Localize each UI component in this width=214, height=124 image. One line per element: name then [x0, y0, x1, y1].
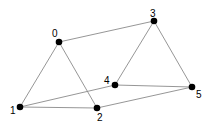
edge-0-3 [59, 21, 154, 42]
edges-group [20, 21, 192, 108]
edge-3-5 [154, 21, 192, 87]
edge-0-2 [59, 42, 97, 108]
edge-1-2 [20, 107, 97, 108]
node-label-0: 0 [52, 28, 58, 39]
node-label-5: 5 [196, 89, 202, 100]
node-1 [17, 104, 24, 111]
node-4 [112, 82, 119, 89]
edge-3-4 [115, 21, 154, 85]
node-5 [189, 84, 196, 91]
node-2 [94, 105, 101, 112]
node-label-2: 2 [97, 112, 103, 123]
node-label-3: 3 [150, 8, 156, 19]
node-0 [56, 39, 63, 46]
edge-4-5 [115, 85, 192, 87]
node-label-1: 1 [10, 105, 16, 116]
edge-1-4 [20, 85, 115, 107]
node-label-4: 4 [104, 75, 110, 86]
graph-diagram: 012345 [0, 0, 214, 124]
edge-0-1 [20, 42, 59, 107]
edge-2-5 [97, 87, 192, 108]
